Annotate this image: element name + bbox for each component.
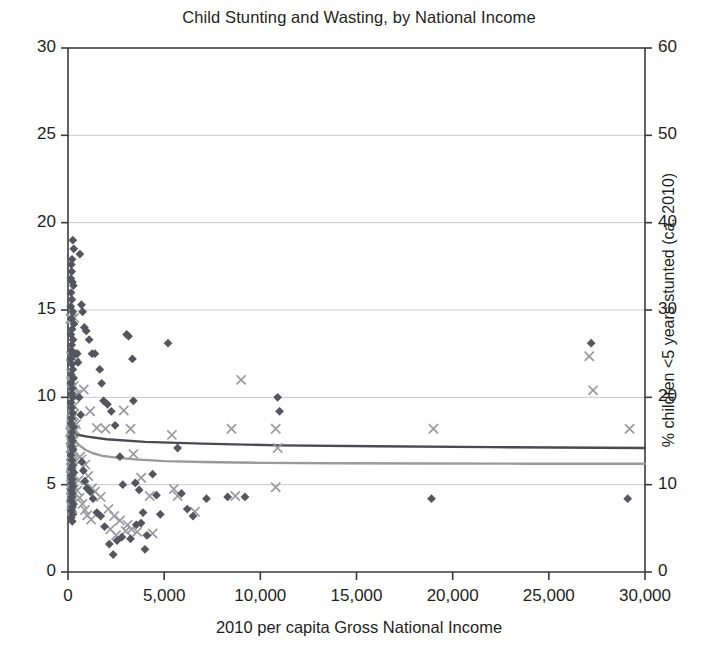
wasting-point xyxy=(142,531,151,540)
wasting-point xyxy=(69,244,78,253)
wasting-point xyxy=(78,307,87,316)
wasting-point xyxy=(76,250,85,259)
y-tick-label-left: 10 xyxy=(8,386,56,406)
wasting-point xyxy=(128,355,137,364)
y-tick-label-right: 0 xyxy=(658,561,706,581)
wasting-point xyxy=(118,480,127,489)
stunting-point xyxy=(79,385,88,394)
stunting-point xyxy=(86,407,95,416)
stunting-point xyxy=(271,483,280,492)
stunting-point xyxy=(585,352,594,361)
stunting-point xyxy=(625,424,634,433)
wasting-point xyxy=(587,339,596,348)
wasting-point xyxy=(135,486,144,495)
wasting-point xyxy=(107,407,116,416)
wasting-point xyxy=(109,550,118,559)
wasting-point xyxy=(116,452,125,461)
x-tick-label: 25,000 xyxy=(503,586,595,606)
stunting-point xyxy=(588,386,597,395)
wasting-point xyxy=(156,510,165,519)
wasting-point xyxy=(105,540,114,549)
wasting-point xyxy=(68,236,77,245)
stunting-point xyxy=(119,406,128,415)
stunting-point xyxy=(110,512,119,521)
wasting-point xyxy=(202,494,211,503)
y-axis-right-title: % children <5 years stunted (ca. 2010) xyxy=(660,173,678,447)
wasting-point xyxy=(241,492,250,501)
y-tick-label-left: 5 xyxy=(8,474,56,494)
stunting-point xyxy=(167,430,176,439)
stunting-point xyxy=(271,424,280,433)
x-tick-label: 30,000 xyxy=(599,586,691,606)
wasting-point xyxy=(139,508,148,517)
chart-figure: Child Stunting and Wasting, by National … xyxy=(0,0,718,663)
wasting-point xyxy=(427,494,436,503)
stunting-markers xyxy=(66,313,635,540)
x-tick-label: 20,000 xyxy=(407,586,499,606)
stunting-point xyxy=(86,515,95,524)
wasting-point xyxy=(76,410,85,419)
wasting-point xyxy=(77,300,86,309)
stunting-point xyxy=(126,424,135,433)
wasting-point xyxy=(141,545,150,554)
gridlines-group xyxy=(68,48,645,485)
y-tick-label-left: 0 xyxy=(8,561,56,581)
x-tick-label: 0 xyxy=(22,586,114,606)
stunting-point xyxy=(101,424,110,433)
stunting-point xyxy=(227,424,236,433)
y-tick-label-left: 20 xyxy=(8,212,56,232)
stunting-point xyxy=(104,505,113,514)
wasting-point xyxy=(275,407,284,416)
wasting-point xyxy=(111,421,120,430)
stunting-point xyxy=(96,492,105,501)
y-tick-label-left: 25 xyxy=(8,124,56,144)
stunting-point xyxy=(136,473,145,482)
y-tick-label-left: 30 xyxy=(8,37,56,57)
wasting-point xyxy=(273,393,282,402)
stunting-point xyxy=(237,375,246,384)
stunting-point xyxy=(129,450,138,459)
y-tick-label-right: 10 xyxy=(658,474,706,494)
wasting-point xyxy=(173,444,182,453)
y-tick-label-left: 15 xyxy=(8,299,56,319)
axis-ticks xyxy=(61,48,652,580)
x-axis-title: 2010 per capita Gross National Income xyxy=(0,618,718,637)
y-tick-label-right: 60 xyxy=(658,37,706,57)
wasting-point xyxy=(183,505,192,514)
y-tick-label-right: 50 xyxy=(658,124,706,144)
stunting-point xyxy=(429,424,438,433)
wasting-point xyxy=(85,335,94,344)
wasting-point xyxy=(623,494,632,503)
stunting-point xyxy=(92,423,101,432)
wasting-point xyxy=(164,339,173,348)
x-tick-label: 5,000 xyxy=(118,586,210,606)
x-tick-label: 15,000 xyxy=(311,586,403,606)
wasting-point xyxy=(148,470,157,479)
wasting-point xyxy=(95,365,104,374)
stunting-point xyxy=(231,491,240,500)
wasting-trendline xyxy=(69,433,645,448)
x-tick-label: 10,000 xyxy=(214,586,306,606)
wasting-point xyxy=(97,379,106,388)
wasting-trend xyxy=(69,433,645,448)
wasting-point xyxy=(100,522,109,531)
scatter-plot-canvas xyxy=(0,0,718,663)
